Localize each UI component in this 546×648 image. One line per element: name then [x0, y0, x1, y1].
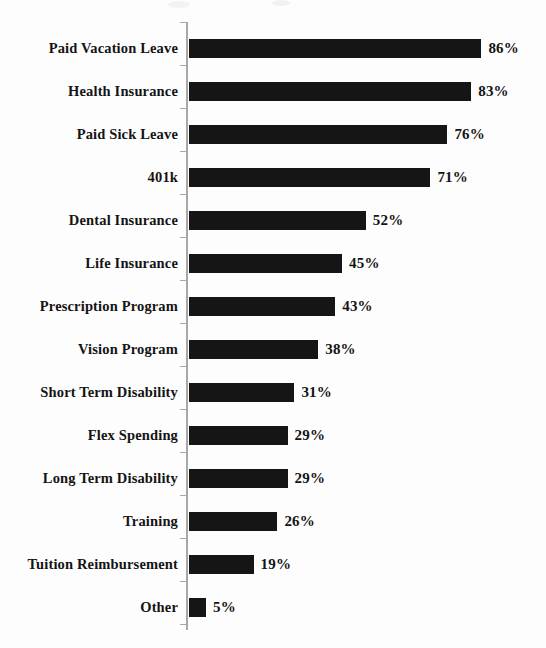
bar-row: Other5%	[0, 594, 546, 620]
bar-value-label: 86%	[488, 35, 519, 61]
bar-fill	[189, 125, 447, 144]
bar-row: Prescription Program43%	[0, 293, 546, 319]
bar-row: Flex Spending29%	[0, 422, 546, 448]
bar	[189, 512, 277, 531]
bar-fill	[189, 598, 206, 617]
bar-fill	[189, 469, 288, 488]
bar-category-label: Short Term Disability	[0, 379, 178, 405]
bar-row: Paid Vacation Leave86%	[0, 35, 546, 61]
bar-value-label: 19%	[261, 551, 292, 577]
axis-tick	[180, 108, 186, 109]
bar-fill	[189, 82, 471, 101]
bar-category-label: Paid Vacation Leave	[0, 35, 178, 61]
bar	[189, 340, 318, 359]
bar-category-label: Other	[0, 594, 178, 620]
axis-tick	[180, 323, 186, 324]
bar-fill	[189, 168, 430, 187]
bar	[189, 39, 481, 58]
bar-category-label: Life Insurance	[0, 250, 178, 276]
axis-tick	[180, 409, 186, 410]
axis-tick	[180, 22, 186, 23]
bar-category-label: Long Term Disability	[0, 465, 178, 491]
bar-value-label: 38%	[325, 336, 356, 362]
axis-tick	[180, 280, 186, 281]
bar-row: Paid Sick Leave76%	[0, 121, 546, 147]
bar-fill	[189, 426, 288, 445]
bar-chart: Paid Vacation Leave86%Health Insurance83…	[0, 0, 546, 648]
bar	[189, 469, 288, 488]
bar-row: Dental Insurance52%	[0, 207, 546, 233]
axis-tick	[180, 194, 186, 195]
bar-fill	[189, 254, 342, 273]
bar	[189, 555, 254, 574]
bar-category-label: Health Insurance	[0, 78, 178, 104]
bar-value-label: 45%	[349, 250, 380, 276]
bar-value-label: 29%	[295, 422, 326, 448]
bar-row: Training26%	[0, 508, 546, 534]
bar-fill	[189, 555, 254, 574]
axis-tick	[180, 624, 186, 625]
scan-artifact-icon	[272, 0, 290, 6]
bar	[189, 125, 447, 144]
bar-value-label: 5%	[213, 594, 236, 620]
bar	[189, 254, 342, 273]
bar-row: Health Insurance83%	[0, 78, 546, 104]
bar	[189, 82, 471, 101]
scan-artifact-icon	[168, 1, 190, 8]
bar	[189, 168, 430, 187]
bar-fill	[189, 297, 335, 316]
axis-tick	[180, 65, 186, 66]
bar-value-label: 83%	[478, 78, 509, 104]
bar-category-label: 401k	[0, 164, 178, 190]
bar-row: Short Term Disability31%	[0, 379, 546, 405]
axis-tick	[180, 452, 186, 453]
bar-category-label: Training	[0, 508, 178, 534]
bar-row: Tuition Reimbursement19%	[0, 551, 546, 577]
axis-tick	[180, 495, 186, 496]
bar-category-label: Tuition Reimbursement	[0, 551, 178, 577]
bar-value-label: 31%	[301, 379, 332, 405]
bar-fill	[189, 340, 318, 359]
bar-category-label: Paid Sick Leave	[0, 121, 178, 147]
axis-tick	[180, 581, 186, 582]
bar-value-label: 52%	[373, 207, 404, 233]
bar-value-label: 29%	[295, 465, 326, 491]
axis-tick	[180, 366, 186, 367]
bar-category-label: Vision Program	[0, 336, 178, 362]
bar-value-label: 43%	[342, 293, 373, 319]
bar	[189, 426, 288, 445]
bar-category-label: Dental Insurance	[0, 207, 178, 233]
bar-row: Long Term Disability29%	[0, 465, 546, 491]
bar-category-label: Flex Spending	[0, 422, 178, 448]
axis-tick	[180, 237, 186, 238]
bar-row: Life Insurance45%	[0, 250, 546, 276]
bar-category-label: Prescription Program	[0, 293, 178, 319]
bar-fill	[189, 383, 294, 402]
bar-row: Vision Program38%	[0, 336, 546, 362]
bar-value-label: 26%	[284, 508, 315, 534]
category-axis-line	[186, 22, 188, 630]
bar-value-label: 71%	[437, 164, 468, 190]
bar	[189, 211, 366, 230]
bar	[189, 598, 206, 617]
bar	[189, 297, 335, 316]
bar-row: 401k71%	[0, 164, 546, 190]
axis-tick	[180, 538, 186, 539]
bar-fill	[189, 39, 481, 58]
bar-fill	[189, 512, 277, 531]
bar-value-label: 76%	[454, 121, 485, 147]
axis-tick	[180, 151, 186, 152]
bar-fill	[189, 211, 366, 230]
bar	[189, 383, 294, 402]
